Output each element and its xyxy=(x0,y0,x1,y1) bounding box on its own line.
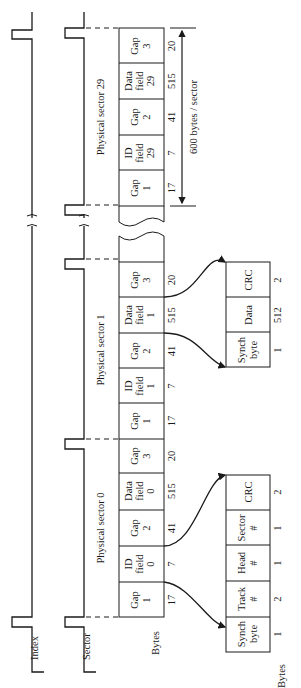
field-gap2: Gap2 xyxy=(129,108,152,126)
svg-text:2: 2 xyxy=(272,596,283,601)
field-gap1: Gap1 xyxy=(129,412,152,430)
svg-text:ID: ID xyxy=(123,380,134,391)
sector-signal xyxy=(65,12,96,672)
svg-text:1: 1 xyxy=(145,312,156,317)
svg-text:byte: byte xyxy=(248,625,259,643)
svg-text:Track: Track xyxy=(236,586,247,611)
svg-text:Gap: Gap xyxy=(129,271,140,289)
svg-text:CRC: CRC xyxy=(243,269,254,290)
field-gap3: Gap3 xyxy=(129,37,152,55)
index-label: Index xyxy=(29,635,40,660)
svg-text:41: 41 xyxy=(166,523,177,534)
field-gap2: Gap2 xyxy=(129,342,152,360)
svg-text:Gap: Gap xyxy=(129,591,140,609)
svg-text:field: field xyxy=(134,305,145,325)
svg-text:1: 1 xyxy=(141,597,152,602)
svg-text:7: 7 xyxy=(166,150,177,155)
svg-text:17: 17 xyxy=(166,595,177,606)
svg-text:Data: Data xyxy=(243,305,254,325)
svg-text:512: 512 xyxy=(272,307,283,323)
field-data: Datafield0 xyxy=(123,481,156,501)
svg-text:Synch: Synch xyxy=(236,620,247,647)
index-signal xyxy=(12,12,44,672)
field-id: IDfield1 xyxy=(123,376,156,396)
svg-text:515: 515 xyxy=(166,73,177,89)
svg-text:Gap: Gap xyxy=(129,342,140,360)
svg-text:3: 3 xyxy=(141,277,152,282)
svg-text:1: 1 xyxy=(272,347,283,352)
disk-sector-format-diagram: Index Sector Physical sector 29 Physical… xyxy=(0,0,301,688)
svg-text:1: 1 xyxy=(145,383,156,388)
svg-text:20: 20 xyxy=(166,41,177,52)
svg-text:515: 515 xyxy=(166,483,177,499)
detail-bytes-label: Bytes xyxy=(276,664,287,688)
svg-text:Gap: Gap xyxy=(129,447,140,465)
svg-text:20: 20 xyxy=(166,275,177,286)
svg-text:ID: ID xyxy=(123,147,134,158)
svg-text:1: 1 xyxy=(141,418,152,423)
svg-text:20: 20 xyxy=(166,451,177,462)
svg-text:1: 1 xyxy=(272,631,283,636)
svg-text:17: 17 xyxy=(166,183,177,194)
svg-text:0: 0 xyxy=(145,488,156,493)
svg-text:Sector: Sector xyxy=(236,514,247,541)
field-gap2: Gap2 xyxy=(129,519,152,537)
svg-text:1: 1 xyxy=(272,525,283,530)
sector-0-fields: Gap3 Datafield0 Gap2 IDfield0 Gap1 20 51… xyxy=(123,447,177,655)
svg-text:17: 17 xyxy=(166,416,177,427)
svg-text:1: 1 xyxy=(272,560,283,565)
field-data: Datafield29 xyxy=(123,71,156,91)
svg-text:CRC: CRC xyxy=(243,481,254,502)
svg-text:3: 3 xyxy=(141,453,152,458)
svg-text:515: 515 xyxy=(166,307,177,323)
sector-label: Sector xyxy=(81,633,92,660)
sector-29-fields: Gap1 IDfield29 Gap2 Datafield29 Gap3 17 … xyxy=(123,37,177,197)
svg-text:ID: ID xyxy=(123,558,134,569)
svg-text:29: 29 xyxy=(145,76,156,87)
svg-text:Data: Data xyxy=(123,71,134,91)
svg-text:Gap: Gap xyxy=(129,108,140,126)
sector-29-label: Physical sector 29 xyxy=(95,79,106,155)
field-id: IDfield0 xyxy=(123,554,156,574)
svg-text:2: 2 xyxy=(141,114,152,119)
svg-text:2: 2 xyxy=(272,277,283,282)
svg-text:Gap: Gap xyxy=(129,37,140,55)
svg-text:41: 41 xyxy=(166,346,177,357)
svg-text:byte: byte xyxy=(248,341,259,359)
svg-text:Synch: Synch xyxy=(236,336,247,363)
data-field-detail: CRC Data Synchbyte 2 512 1 xyxy=(164,260,283,367)
field-gap3: Gap3 xyxy=(129,447,152,465)
id-field-detail: CRC Sector# Head# Track# Synchbyte 2 1 1… xyxy=(164,475,287,688)
svg-text:1: 1 xyxy=(141,185,152,190)
sector-size-label: 600 bytes / sector xyxy=(188,80,199,154)
svg-text:7: 7 xyxy=(166,383,177,388)
svg-text:field: field xyxy=(134,376,145,396)
sector-29-bytes: 17 7 41 515 20 xyxy=(166,41,177,194)
sector-1-label: Physical sector 1 xyxy=(95,314,106,385)
svg-text:Head: Head xyxy=(236,551,247,574)
svg-text:29: 29 xyxy=(145,148,156,159)
svg-text:field: field xyxy=(134,481,145,501)
svg-text:#: # xyxy=(248,560,259,566)
svg-text:2: 2 xyxy=(272,489,283,494)
svg-text:41: 41 xyxy=(166,112,177,123)
svg-text:Data: Data xyxy=(123,305,134,325)
field-id: IDfield29 xyxy=(123,143,156,163)
field-gap1: Gap1 xyxy=(129,179,152,197)
svg-text:field: field xyxy=(134,71,145,91)
svg-text:field: field xyxy=(134,143,145,163)
field-gap3: Gap3 xyxy=(129,271,152,289)
svg-text:field: field xyxy=(134,554,145,574)
svg-text:3: 3 xyxy=(141,43,152,48)
sector-1-fields: Gap3 Datafield1 Gap2 IDfield1 Gap1 20 51… xyxy=(123,271,177,430)
svg-text:Gap: Gap xyxy=(129,519,140,537)
svg-text:2: 2 xyxy=(141,525,152,530)
svg-text:0: 0 xyxy=(145,561,156,566)
svg-text:Data: Data xyxy=(123,481,134,501)
svg-text:Gap: Gap xyxy=(129,412,140,430)
svg-text:#: # xyxy=(248,596,259,602)
bytes-label: Bytes xyxy=(150,631,161,655)
field-gap1: Gap1 xyxy=(129,591,152,609)
svg-text:2: 2 xyxy=(141,348,152,353)
svg-text:#: # xyxy=(248,525,259,531)
